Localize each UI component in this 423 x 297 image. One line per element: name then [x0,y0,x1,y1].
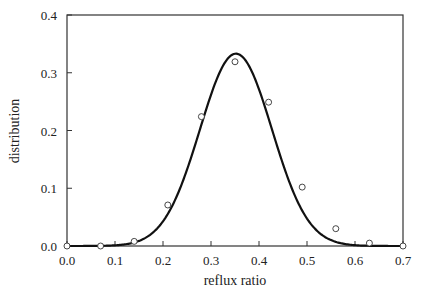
y-tick-label: 0.0 [41,239,57,254]
data-point [131,238,137,244]
y-tick-label: 0.4 [41,8,58,23]
data-point [299,184,305,190]
y-tick-label: 0.1 [41,181,57,196]
x-tick-label: 0.5 [299,253,315,268]
x-tick-label: 0.1 [107,253,123,268]
data-point [400,243,406,249]
y-tick-label: 0.2 [41,124,57,139]
x-axis-label: reflux ratio [204,273,267,288]
fitted-curve [67,54,403,246]
data-point [366,240,372,246]
distribution-chart: 0.00.10.20.30.40.50.60.70.00.10.20.30.4 … [0,0,423,297]
y-axis-label: distribution [7,99,22,164]
x-tick-label: 0.0 [59,253,75,268]
plot-axes [67,15,403,246]
data-point [98,243,104,249]
data-point [198,114,204,120]
tick-labels: 0.00.10.20.30.40.50.60.70.00.10.20.30.4 [41,8,412,268]
data-point [232,59,238,65]
x-tick-label: 0.7 [395,253,412,268]
x-tick-label: 0.3 [203,253,219,268]
x-tick-label: 0.2 [155,253,171,268]
plot-frame [67,15,403,246]
x-tick-label: 0.6 [347,253,364,268]
data-point [333,226,339,232]
data-points [64,59,406,249]
x-tick-label: 0.4 [251,253,268,268]
y-tick-label: 0.3 [41,66,57,81]
data-point [165,202,171,208]
data-point [64,243,70,249]
data-point [266,99,272,105]
